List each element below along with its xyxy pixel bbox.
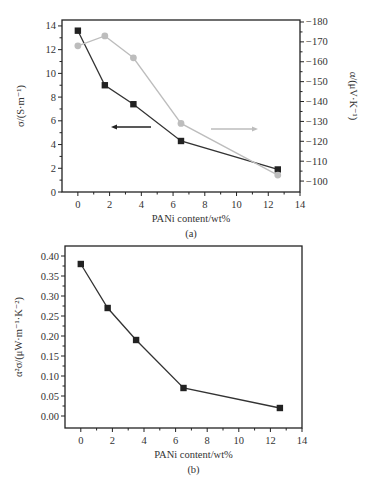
- y-tick-label: 4: [51, 139, 57, 150]
- x-tick-label: 12: [265, 435, 276, 446]
- data-point: [104, 305, 110, 311]
- x-axis-title: PANi content/wt%: [154, 449, 233, 460]
- x-tick-label: 0: [75, 199, 80, 210]
- data-point: [78, 261, 84, 267]
- panel-caption: (a): [185, 228, 197, 240]
- x-axis-title: PANi content/wt%: [152, 213, 231, 224]
- y-tick-label: 0.15: [41, 351, 59, 362]
- y-axis-title: σ/(S·m⁻¹): [15, 85, 27, 127]
- series-sigma: [75, 27, 281, 172]
- figure: 02468101214PANi content/wt%(a)0246810121…: [0, 0, 367, 485]
- plot-frame: [62, 20, 300, 192]
- data-point: [130, 101, 136, 107]
- x-tick-label: 4: [141, 435, 147, 446]
- y-right-tick-label: −110: [306, 156, 327, 167]
- chart-panel-a: 02468101214PANi content/wt%(a)0246810121…: [15, 16, 359, 240]
- x-tick-label: 6: [170, 199, 175, 210]
- y-tick-label: 0.00: [41, 411, 59, 422]
- data-point: [101, 33, 108, 40]
- chart-panel-b: 02468101214PANi content/wt%(b)0.000.050.…: [13, 246, 308, 476]
- y-tick-label: 0.05: [41, 391, 59, 402]
- x-tick-label: 10: [234, 435, 245, 446]
- y-tick-label: 12: [46, 44, 57, 55]
- y-axis-left: 02468101214σ/(S·m⁻¹): [15, 20, 62, 197]
- y-tick-label: 2: [51, 163, 56, 174]
- x-tick-label: 8: [202, 199, 207, 210]
- y-tick-label: 0: [51, 187, 56, 198]
- data-point: [274, 172, 281, 179]
- data-point: [180, 385, 186, 391]
- arrow-right-icon: [211, 127, 258, 132]
- data-point: [133, 337, 139, 343]
- y-tick-label: 14: [46, 20, 57, 31]
- y-right-tick-label: −130: [306, 116, 328, 127]
- y-right-tick-label: −150: [306, 76, 328, 87]
- panel-caption: (b): [187, 464, 200, 476]
- x-tick-label: 14: [295, 199, 306, 210]
- y-right-tick-label: −180: [306, 16, 328, 27]
- x-tick-label: 8: [205, 435, 210, 446]
- y-tick-label: 6: [51, 115, 56, 126]
- y-right-tick-label: −170: [306, 36, 328, 47]
- x-tick-label: 14: [297, 435, 308, 446]
- y-tick-label: 0.30: [41, 291, 59, 302]
- y-tick-label: 0.40: [41, 251, 59, 262]
- y-axis-title: α²σ/(μW·m⁻¹·K⁻²): [13, 297, 25, 377]
- y-tick-label: 0.20: [41, 331, 59, 342]
- y-right-tick-label: −160: [306, 56, 328, 67]
- series-power-factor: [78, 261, 283, 411]
- data-point: [74, 42, 81, 49]
- y-axis-right-title: α/(μV·K⁻¹): [347, 72, 359, 121]
- data-point: [178, 120, 185, 127]
- y-tick-label: 0.35: [41, 271, 59, 282]
- plot-frame: [65, 246, 302, 428]
- y-tick-label: 0.10: [41, 371, 59, 382]
- data-point: [130, 54, 137, 61]
- x-tick-label: 12: [263, 199, 274, 210]
- y-axis-right: −100−110−120−130−140−150−160−170−180α/(μ…: [300, 16, 359, 186]
- y-tick-label: 8: [51, 92, 56, 103]
- data-point: [277, 405, 283, 411]
- x-tick-label: 6: [173, 435, 178, 446]
- y-tick-label: 10: [46, 68, 57, 79]
- y-tick-label: 0.25: [41, 311, 59, 322]
- data-point: [75, 27, 81, 33]
- y-right-tick-label: −140: [306, 96, 328, 107]
- x-tick-label: 2: [110, 435, 115, 446]
- x-tick-label: 10: [231, 199, 242, 210]
- x-tick-label: 2: [107, 199, 112, 210]
- y-right-tick-label: −120: [306, 136, 328, 147]
- x-tick-label: 4: [139, 199, 145, 210]
- data-point: [178, 138, 184, 144]
- data-point: [102, 82, 108, 88]
- series-alpha: [74, 33, 281, 179]
- y-axis-left: 0.000.050.100.150.200.250.300.350.40α²σ/…: [13, 251, 65, 422]
- x-tick-label: 0: [78, 435, 83, 446]
- x-axis: 02468101214PANi content/wt%(a): [75, 192, 306, 240]
- arrow-left-icon: [111, 125, 151, 130]
- y-right-tick-label: −100: [306, 176, 328, 187]
- x-axis: 02468101214PANi content/wt%(b): [78, 428, 308, 476]
